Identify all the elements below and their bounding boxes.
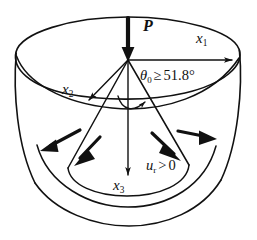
load-label: P (143, 18, 153, 34)
vessel-base (35, 180, 221, 226)
cone-angle-relation: ≥ (152, 67, 164, 83)
displacement-arrowhead-outer-left (40, 140, 59, 153)
cone-failure-diagram: P x1 x2 x3 θ0≥51.8° ur>0 (0, 0, 257, 240)
vessel-inner-base (37, 145, 216, 207)
angle-arc (118, 96, 145, 109)
axis-x3-symbol: x (113, 177, 120, 193)
vessel-wall-left (15, 53, 35, 183)
axis-x1-subscript: 1 (203, 38, 208, 48)
axis-x3-label: x3 (113, 178, 124, 195)
cone-angle-value: 51.8° (164, 67, 195, 83)
cone-angle-subscript: 0 (147, 75, 152, 85)
axis-x2-symbol: x (62, 81, 69, 97)
radial-displacement-value: 0 (168, 157, 175, 173)
axis-x3-subscript: 3 (120, 185, 125, 195)
cone-angle-label: θ0≥51.8° (140, 68, 195, 85)
radial-displacement-relation: > (156, 157, 168, 173)
diagram-canvas (0, 0, 257, 240)
axis-x2-label: x2 (62, 82, 73, 99)
cone-left-edge (68, 60, 128, 168)
axis-x1-label: x1 (196, 31, 207, 48)
radial-displacement-label: ur>0 (146, 158, 176, 175)
axis-x2-subscript: 2 (69, 89, 74, 99)
axis-x1-symbol: x (196, 30, 203, 46)
displacement-arrowhead-outer-right (199, 131, 217, 146)
